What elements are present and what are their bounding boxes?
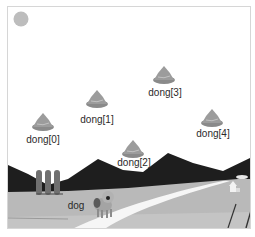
sun-icon	[14, 12, 29, 27]
dong-label-1: dong[1]	[80, 114, 113, 125]
scene-background	[8, 7, 251, 229]
poop-icon[interactable]	[153, 66, 175, 84]
dong-label-4: dong[4]	[196, 128, 229, 139]
dong-label-2: dong[2]	[117, 157, 150, 168]
game-stage[interactable]: dong[0] dong[1] dong[2] dong[3] dong[4] …	[7, 6, 251, 229]
dog-label: dog	[68, 200, 85, 211]
poop-icon[interactable]	[122, 140, 144, 158]
poop-icon[interactable]	[201, 109, 223, 127]
poop-icon[interactable]	[32, 113, 54, 131]
dong-label-3: dong[3]	[148, 87, 181, 98]
poop-icon[interactable]	[86, 90, 108, 108]
dong-label-0: dong[0]	[26, 134, 59, 145]
cloud	[236, 175, 248, 179]
silos	[36, 170, 60, 195]
